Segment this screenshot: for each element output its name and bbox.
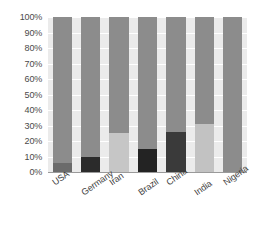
y-axis-tick-label: 70% (25, 59, 42, 68)
x-axis-tick-label: India (193, 179, 214, 197)
bar-germany[interactable] (81, 17, 100, 172)
bar-segment-lower (195, 124, 214, 172)
stacked-bar-chart: 0%10%20%30%40%50%60%70%80%90%100% USAGer… (0, 0, 255, 235)
x-axis: USAGermanyIranBrazilChinaIndiaNigeria (0, 172, 255, 235)
y-axis-tick-label: 20% (25, 137, 42, 146)
y-axis-tick-label: 100% (20, 13, 42, 22)
x-axis-tick-label: USA (51, 170, 71, 188)
bar-iran[interactable] (109, 17, 128, 172)
y-axis-tick-label: 30% (25, 121, 42, 130)
bar-usa[interactable] (53, 17, 72, 172)
y-axis-tick-label: 40% (25, 106, 42, 115)
bar-segment-lower (81, 157, 100, 173)
bars-layer (48, 17, 247, 172)
bar-segment-upper (166, 17, 185, 132)
y-axis-tick-label: 10% (25, 152, 42, 161)
bar-nigeria[interactable] (223, 17, 242, 172)
plot-area (48, 17, 247, 172)
x-axis-tick-label: Brazil (137, 177, 160, 197)
bar-segment-upper (195, 17, 214, 124)
bar-china[interactable] (166, 17, 185, 172)
bar-segment-upper (81, 17, 100, 157)
y-axis-tick-label: 80% (25, 44, 42, 53)
bar-segment-upper (53, 17, 72, 163)
bar-segment-lower (138, 149, 157, 172)
bar-segment-upper (138, 17, 157, 149)
bar-brazil[interactable] (138, 17, 157, 172)
y-axis-tick-label: 60% (25, 75, 42, 84)
y-axis-tick-label: 50% (25, 90, 42, 99)
bar-segment-upper (109, 17, 128, 133)
y-axis-tick-label: 90% (25, 28, 42, 37)
bar-india[interactable] (195, 17, 214, 172)
bar-segment-upper (223, 17, 242, 172)
bar-segment-lower (109, 133, 128, 172)
